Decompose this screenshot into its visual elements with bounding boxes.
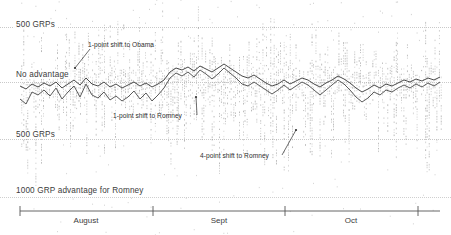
annotation-leader-dot — [195, 96, 197, 98]
annotation-leader-line — [75, 49, 90, 68]
annotation-leader-dot — [295, 129, 297, 131]
annotation-leader-line — [196, 97, 197, 115]
annotation-4-point-shift-romney: 4-point shift to Romney — [200, 152, 269, 159]
annotation-leader-line — [282, 130, 296, 155]
chart-root: 500 GRPs No advantage 500 GRPs 1000 GRP … — [0, 0, 451, 235]
annotation-leader-dot — [74, 67, 76, 69]
annotation-1-point-shift-obama: 1-point shift to Obama — [88, 41, 154, 48]
annotation-1-point-shift-romney: 1-point shift to Romney — [113, 112, 182, 119]
annotation-leaders — [0, 0, 451, 235]
